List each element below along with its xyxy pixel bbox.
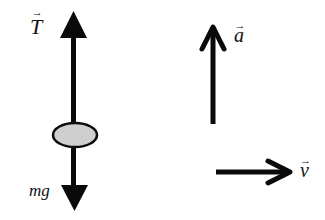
- vector-arrow-icon: →: [235, 20, 246, 31]
- tension-label: →T: [30, 14, 42, 40]
- acceleration-label: →a: [234, 24, 244, 47]
- hanging-body: [53, 123, 97, 147]
- free-body-diagram: →T mg →a →v: [0, 0, 325, 220]
- velocity-arrow: [216, 161, 290, 183]
- acceleration-arrow: [202, 27, 224, 124]
- weight-label: mg: [29, 181, 50, 201]
- velocity-label: →v: [300, 159, 309, 182]
- vector-arrow-icon: →: [300, 155, 311, 166]
- weight-arrow: [61, 144, 88, 211]
- vector-arrow-icon: →: [32, 7, 43, 18]
- tension-arrow: [60, 11, 87, 126]
